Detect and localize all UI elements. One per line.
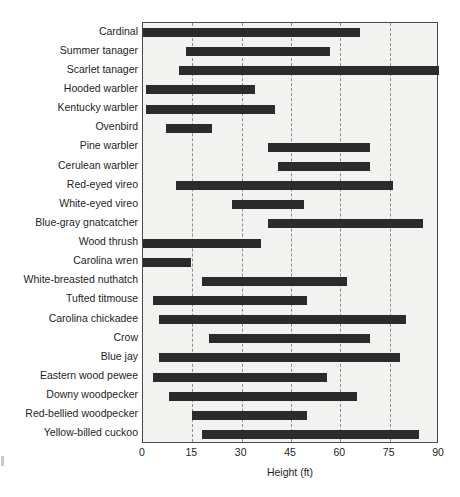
range-bar — [146, 105, 274, 114]
range-bar — [153, 296, 308, 305]
range-bar — [143, 28, 360, 37]
range-bar — [186, 47, 331, 56]
range-bar — [176, 181, 393, 190]
range-bar — [166, 124, 212, 133]
range-bar — [179, 66, 439, 75]
y-axis-label: Carolina wren — [0, 255, 138, 266]
x-axis-tick-label: 45 — [284, 446, 296, 458]
range-bar — [192, 411, 307, 420]
gridline — [340, 23, 341, 442]
y-axis-label: White-breasted nuthatch — [0, 274, 138, 285]
y-axis-label: Cerulean warbler — [0, 160, 138, 171]
range-bar — [209, 334, 370, 343]
x-axis-title: Height (ft) — [142, 466, 438, 478]
y-axis-label: White-eyed vireo — [0, 198, 138, 209]
x-axis-tick-label: 60 — [333, 446, 345, 458]
y-axis-label: Eastern wood pewee — [0, 370, 138, 381]
range-bar — [232, 200, 304, 209]
range-bar — [268, 143, 370, 152]
y-axis-label: Scarlet tanager — [0, 64, 138, 75]
y-axis-label: Red-bellied woodpecker — [0, 408, 138, 419]
range-bar — [143, 258, 191, 267]
y-axis-label: Red-eyed vireo — [0, 179, 138, 190]
x-axis-tick-label: 30 — [235, 446, 247, 458]
range-bar — [268, 219, 423, 228]
y-axis-label: Summer tanager — [0, 45, 138, 56]
y-axis-label: Carolina chickadee — [0, 313, 138, 324]
range-bar — [202, 430, 419, 439]
scan-edge-artifact — [1, 456, 4, 466]
range-bar — [159, 353, 399, 362]
y-axis-label: Hooded warbler — [0, 83, 138, 94]
gridline — [390, 23, 391, 442]
range-bar-chart: CardinalSummer tanagerScarlet tanagerHoo… — [0, 0, 460, 497]
x-axis-tick-label: 75 — [383, 446, 395, 458]
y-axis-label: Blue-gray gnatcatcher — [0, 217, 138, 228]
y-axis-label: Wood thrush — [0, 236, 138, 247]
y-axis-label: Ovenbird — [0, 121, 138, 132]
y-axis-label: Crow — [0, 332, 138, 343]
y-axis-label: Tufted titmouse — [0, 293, 138, 304]
y-axis-label: Pine warbler — [0, 140, 138, 151]
x-axis-tick-label: 15 — [185, 446, 197, 458]
y-axis-labels: CardinalSummer tanagerScarlet tanagerHoo… — [0, 22, 138, 443]
x-axis-tick-label: 0 — [139, 446, 145, 458]
y-axis-label: Yellow-billed cuckoo — [0, 427, 138, 438]
range-bar — [153, 373, 327, 382]
y-axis-label: Kentucky warbler — [0, 102, 138, 113]
range-bar — [278, 162, 370, 171]
range-bar — [143, 239, 261, 248]
y-axis-label: Downy woodpecker — [0, 389, 138, 400]
y-axis-label: Cardinal — [0, 26, 138, 37]
range-bar — [202, 277, 347, 286]
range-bar — [169, 392, 356, 401]
y-axis-label: Blue jay — [0, 351, 138, 362]
plot-area — [142, 22, 438, 443]
range-bar — [146, 85, 255, 94]
range-bar — [159, 315, 406, 324]
x-axis-tick-label: 90 — [432, 446, 444, 458]
x-axis-tick-labels: 0153045607590 — [0, 446, 460, 460]
